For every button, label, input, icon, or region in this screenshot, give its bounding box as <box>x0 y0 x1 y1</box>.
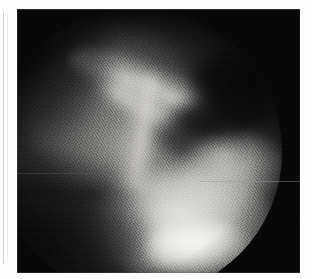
page-margin-rule-secondary <box>7 14 8 258</box>
fluoroscopy-field-of-view <box>17 9 282 273</box>
scanned-page <box>0 0 312 279</box>
page-margin-rule <box>3 12 4 264</box>
scan-artefact-line-left <box>17 173 91 174</box>
radiograph-image-plate <box>17 9 300 273</box>
bone-structure-brightest-region <box>144 220 254 273</box>
scan-artefact-line-right <box>200 181 300 182</box>
attenuation-shadow-upper-left <box>17 9 114 138</box>
